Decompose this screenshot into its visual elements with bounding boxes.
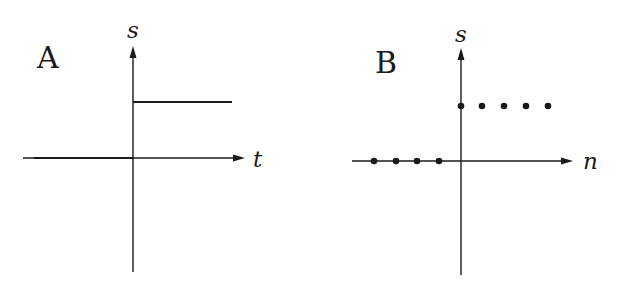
panel-a-y-axis-label: s [127, 17, 139, 43]
panel-a-x-arrow-icon [233, 155, 245, 162]
sample-dot [436, 158, 443, 165]
panel-a-y-arrow-icon [130, 46, 137, 58]
sample-dot [523, 103, 530, 110]
panel-b-y-axis-label: s [455, 21, 467, 47]
panel-b-x-axis-label: n [583, 148, 598, 174]
sample-dot [545, 103, 552, 110]
sample-dot [458, 103, 465, 110]
sample-dot [479, 103, 486, 110]
panel-b: B s n [352, 21, 598, 275]
sample-dot [393, 158, 400, 165]
panel-b-one-samples [458, 103, 552, 110]
sample-dot [501, 103, 508, 110]
panel-a-label: A [36, 40, 59, 75]
sample-dot [414, 158, 421, 165]
panel-b-label: B [375, 45, 397, 80]
panel-b-y-arrow-icon [458, 48, 465, 60]
panel-a-x-axis-label: t [253, 146, 263, 172]
sample-dot [371, 158, 378, 165]
panel-b-x-arrow-icon [561, 158, 573, 165]
step-function-diagram: A s t B s n [0, 0, 618, 286]
panel-a: A s t [23, 17, 263, 272]
